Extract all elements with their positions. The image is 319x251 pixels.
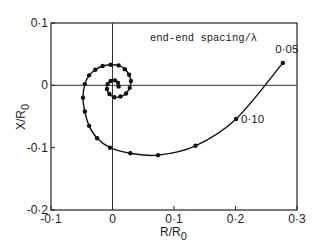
y-tick-label: -0·1 <box>27 141 49 155</box>
y-tick-label: -0·2 <box>27 203 49 217</box>
data-point <box>93 68 97 72</box>
data-point <box>193 144 197 148</box>
data-point <box>129 79 133 83</box>
x-tick-label: 0·2 <box>227 212 245 226</box>
x-tick-label: 0·3 <box>288 212 306 226</box>
data-point <box>105 87 109 91</box>
data-point <box>95 136 99 140</box>
data-point <box>116 81 120 85</box>
data-point <box>112 95 116 99</box>
data-point <box>81 96 85 100</box>
annotation-text: end-end spacing/λ <box>150 32 257 44</box>
y-tick-label: 0 <box>41 78 48 92</box>
y-tick-label: 0·1 <box>31 16 49 30</box>
data-point <box>83 82 87 86</box>
x-axis-title: R/R0 <box>160 225 187 242</box>
data-point <box>123 67 127 71</box>
data-point <box>107 92 111 96</box>
data-point <box>87 73 91 77</box>
x-tick-label: 0 <box>109 212 116 226</box>
data-point <box>116 63 120 67</box>
impedance-spiral-chart: -0·100·10·20·3-0·2-0·100·1 0·050·10 end-… <box>0 0 319 251</box>
data-point <box>87 124 91 128</box>
data-points <box>81 61 285 158</box>
data-point <box>105 82 109 86</box>
data-point <box>118 94 122 98</box>
data-point <box>156 153 160 157</box>
data-point <box>127 73 131 77</box>
data-point <box>128 151 132 155</box>
data-point <box>108 79 112 83</box>
point-label: 0·05 <box>275 43 298 55</box>
point-labels: 0·050·10 <box>241 43 298 125</box>
data-point <box>116 84 120 88</box>
data-point <box>124 91 128 95</box>
data-point <box>234 117 238 121</box>
point-label: 0·10 <box>241 113 264 125</box>
data-point <box>108 145 112 149</box>
data-point <box>83 109 87 113</box>
x-tick-label: 0·1 <box>165 212 183 226</box>
data-point <box>128 86 132 90</box>
data-point <box>108 63 112 67</box>
data-point <box>100 64 104 68</box>
data-point <box>281 61 285 65</box>
y-axis-title: X/R0 <box>14 104 31 130</box>
